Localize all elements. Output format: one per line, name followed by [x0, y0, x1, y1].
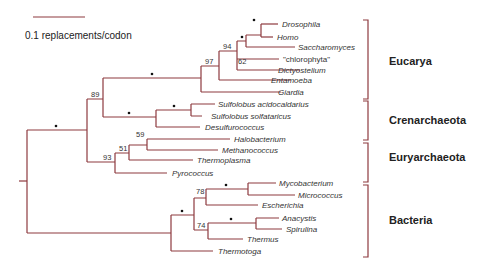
bootstrap-value: 74 [197, 221, 205, 230]
taxon-label: Thermoplasma [197, 156, 251, 165]
taxon-label: Halobacterium [234, 135, 286, 144]
bootstrap-value: 62 [238, 57, 246, 66]
bracket-bacteria [363, 185, 368, 257]
taxon-label: Mycobacterium [279, 179, 334, 188]
group-label-crenarchaeota: Crenarchaeota [389, 114, 467, 126]
bracket-crenarchaeota [363, 101, 368, 140]
taxon-label: Homo [277, 33, 299, 42]
taxon-label: Drosophila [282, 20, 321, 29]
taxon-label: Escherichia [262, 201, 304, 210]
branch-animals [246, 24, 261, 37]
taxon-label: Methanococcus [222, 146, 278, 155]
taxon-label: Thermus [247, 235, 279, 244]
group-label-eucarya: Eucarya [389, 55, 433, 67]
phylogenetic-tree: 0.1 replacements/codon Drosophila Homo S… [0, 0, 483, 269]
branch-eucarya [103, 66, 201, 92]
bootstrap-value: 97 [205, 57, 213, 66]
taxon-label: Pyrococcus [172, 169, 213, 178]
branch-cyanobacteria [208, 218, 282, 229]
support-dot [241, 36, 244, 39]
bracket-eucarya [363, 20, 368, 99]
bracket-euryarchaeota [363, 143, 368, 182]
support-dot [253, 19, 256, 22]
bootstrap-value: 51 [119, 144, 127, 153]
branch-n59 [129, 139, 147, 150]
support-dot [55, 125, 58, 128]
group-label-euryarchaeota: Euryarchaeota [389, 151, 466, 163]
support-dot [128, 112, 131, 115]
support-dot [151, 73, 154, 76]
bootstrap-value: 94 [223, 42, 231, 51]
support-dot [173, 105, 176, 108]
scale-bar-label: 0.1 replacements/codon [25, 30, 132, 41]
group-label-bacteria: Bacteria [389, 214, 433, 226]
branch-halo-methano [147, 139, 230, 150]
bootstrap-value: 89 [91, 90, 99, 99]
support-dot [225, 184, 228, 187]
bootstrap-value: 93 [103, 153, 111, 162]
support-dot [230, 218, 233, 221]
bootstrap-value: 78 [196, 187, 204, 196]
branch-bacteria [27, 215, 171, 251]
support-dot [181, 210, 184, 213]
branch-bact-core [171, 198, 194, 230]
taxon-label: "chlorophyta" [283, 55, 330, 64]
taxon-label: Entamoeba [271, 76, 312, 85]
taxon-label: Giardia [278, 88, 304, 97]
taxon-label: Desulfurococcus [205, 123, 264, 132]
taxon-label: Anacystis [281, 214, 316, 223]
taxon-label: Saccharomyces [298, 43, 355, 52]
bootstrap-value: 59 [136, 130, 144, 139]
taxon-label: Dictyostelium [278, 66, 326, 75]
taxon-label: Micrococcus [298, 191, 342, 200]
taxon-label: Sulfolobus acidocaldarius [218, 100, 309, 109]
taxon-label: Sulfolobus solfataricus [211, 112, 291, 121]
taxon-label: Spirulina [286, 225, 318, 234]
branch-archaea-eucarya [27, 99, 87, 162]
taxon-label: Thermotoga [218, 247, 262, 256]
